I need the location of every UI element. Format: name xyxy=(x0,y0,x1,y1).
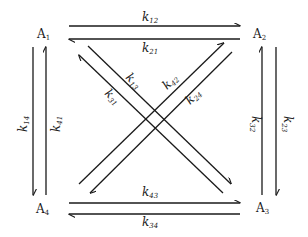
label-k41: k41 xyxy=(49,116,64,132)
label-k34: k34 xyxy=(142,215,158,230)
label-k43: k43 xyxy=(142,185,159,200)
label-k23: k23 xyxy=(280,116,295,133)
arrow-k31 xyxy=(79,55,223,193)
node-a3: A3 xyxy=(255,201,269,216)
label-k13: k13 xyxy=(122,70,144,92)
node-a1: A1 xyxy=(36,27,50,42)
label-k42: k42 xyxy=(159,70,181,92)
node-a4: A4 xyxy=(35,202,50,217)
svg-text:A2: A2 xyxy=(252,27,266,42)
svg-text:A4: A4 xyxy=(35,202,50,217)
label-k24: k24 xyxy=(182,86,204,108)
arrow-k42 xyxy=(79,43,224,184)
label-k31: k31 xyxy=(101,86,123,108)
label-k32: k32 xyxy=(248,116,263,133)
label-k12: k12 xyxy=(142,10,159,25)
svg-text:A3: A3 xyxy=(255,201,269,216)
label-k14: k14 xyxy=(16,116,31,132)
arrow-k24 xyxy=(90,52,232,193)
svg-text:A1: A1 xyxy=(36,27,50,42)
arrow-k13 xyxy=(88,46,231,184)
label-k21: k21 xyxy=(142,41,158,56)
kinetic-scheme-diagram: A1 A2 A3 A4 k12 k21 k43 k34 k14 k41 k32 … xyxy=(0,0,308,237)
node-a2: A2 xyxy=(252,27,266,42)
